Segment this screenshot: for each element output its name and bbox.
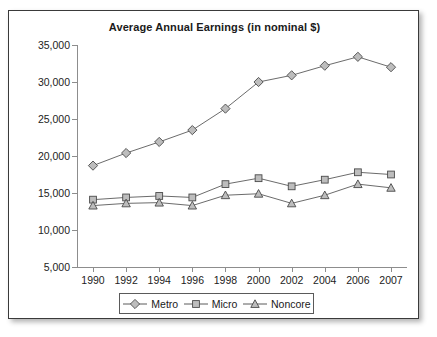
x-axis-tick: [93, 267, 94, 272]
y-axis-tick-label: 15,000: [38, 187, 70, 199]
x-axis-tick-label: 2002: [280, 274, 303, 286]
x-axis-tick: [159, 267, 160, 272]
y-axis-tick-label: 10,000: [38, 224, 70, 236]
data-point-metro: [386, 63, 395, 72]
legend-label: Noncore: [271, 298, 311, 310]
legend-marker-square-icon: [183, 298, 209, 310]
data-point-micro: [222, 181, 229, 188]
series-line-metro: [93, 57, 391, 166]
data-point-micro: [189, 194, 196, 201]
data-point-noncore: [254, 190, 262, 198]
data-point-metro: [254, 77, 263, 86]
data-point-noncore: [321, 191, 329, 199]
x-axis-tick: [225, 267, 226, 272]
x-axis-tick: [192, 267, 193, 272]
x-axis-tick-label: 1994: [148, 274, 171, 286]
chart-figure-frame: Average Annual Earnings (in nominal $) 3…: [8, 10, 419, 319]
data-point-metro: [188, 126, 197, 135]
x-axis-tick-label: 2006: [346, 274, 369, 286]
data-point-noncore: [354, 180, 362, 188]
plot-area: 35,00030,00025,00020,00015,00010,0005,00…: [77, 45, 407, 267]
data-point-metro: [221, 104, 230, 113]
y-axis-tick-label: 35,000: [38, 39, 70, 51]
data-point-metro: [287, 71, 296, 80]
x-axis-tick: [259, 267, 260, 272]
x-axis-tick: [325, 267, 326, 272]
data-point-micro: [288, 183, 295, 190]
x-axis-tick: [391, 267, 392, 272]
x-axis-tick-label: 2000: [247, 274, 270, 286]
y-axis-tick-label: 5,000: [44, 261, 70, 273]
data-point-metro: [88, 161, 97, 170]
y-axis-tick-label: 30,000: [38, 76, 70, 88]
series-plot: [77, 45, 407, 267]
x-axis-tick: [126, 267, 127, 272]
x-axis-tick-label: 1998: [214, 274, 237, 286]
y-axis-tick: [72, 267, 77, 268]
x-axis-tick: [292, 267, 293, 272]
chart-legend: MetroMicroNoncore: [119, 293, 314, 314]
y-axis-tick-label: 20,000: [38, 150, 70, 162]
legend-label: Metro: [151, 298, 178, 310]
data-point-metro: [155, 137, 164, 146]
data-point-metro: [320, 61, 329, 70]
data-point-micro: [354, 169, 361, 176]
data-point-metro: [122, 148, 131, 157]
x-axis-tick-label: 2004: [313, 274, 336, 286]
legend-item-micro[interactable]: Micro: [183, 298, 238, 310]
chart-title: Average Annual Earnings (in nominal $): [9, 21, 420, 33]
y-axis-tick-label: 25,000: [38, 113, 70, 125]
data-point-micro: [321, 176, 328, 183]
data-point-metro: [353, 52, 362, 61]
x-axis-tick: [358, 267, 359, 272]
legend-item-metro[interactable]: Metro: [122, 298, 178, 310]
x-axis-tick-label: 1996: [181, 274, 204, 286]
series-line-micro: [93, 172, 391, 199]
legend-item-noncore[interactable]: Noncore: [242, 298, 311, 310]
x-axis-tick-label: 1992: [114, 274, 137, 286]
series-line-noncore: [93, 184, 391, 205]
x-axis-tick-label: 1990: [81, 274, 104, 286]
data-point-micro: [388, 171, 395, 178]
legend-marker-triangle-icon: [242, 298, 268, 310]
data-point-micro: [255, 175, 262, 182]
legend-marker-diamond-icon: [122, 298, 148, 310]
legend-label: Micro: [212, 298, 238, 310]
x-axis-tick-label: 2007: [379, 274, 402, 286]
